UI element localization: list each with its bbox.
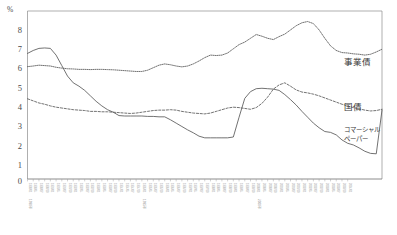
- x-tick-label: 2002/04: [308, 183, 312, 193]
- x-tick-label: 1998/07: [222, 183, 226, 193]
- x-tick-label: 1999/04: [239, 183, 243, 193]
- x-tick-label: 1993/04: [102, 183, 106, 193]
- x-tick-label: 1992/01: [73, 183, 77, 193]
- legend-label-commercial-paper-2: ペーパー: [344, 135, 368, 142]
- x-tick-label: 2000/01: [256, 183, 260, 193]
- x-tick-label: 2001/10: [296, 183, 300, 193]
- y-tick-1: 1: [18, 160, 22, 170]
- x-tick-label: 1999/01: [233, 183, 237, 193]
- x-tick-label: 2001/04: [285, 183, 289, 193]
- x-tick-label: 2000/04: [262, 183, 266, 193]
- x-tick-label: 1997/07: [199, 183, 203, 193]
- x-tick-label: 1990/01: [28, 183, 32, 193]
- x-tick-label: 1993/07: [108, 183, 112, 193]
- x-tick-label: 1994/10: [136, 183, 140, 193]
- x-tick-label: 1996/04: [170, 183, 174, 193]
- x-tick-label: 2000/10: [273, 183, 277, 193]
- x-tick-label: 1991/01: [50, 183, 54, 193]
- x-tick-label: 1991/10: [68, 183, 72, 193]
- x-tick-label: 1993/01: [96, 183, 100, 193]
- x-tick-major-label: 1990年: [28, 199, 33, 209]
- legend-label-corporate-bond: 事業債: [344, 57, 371, 67]
- x-tick-label: 1999/07: [245, 183, 249, 193]
- y-tick-0: 0: [18, 176, 22, 186]
- x-tick-label: 1996/07: [176, 183, 180, 193]
- x-tick-label: 1993/10: [113, 183, 117, 193]
- y-tick-8: 8: [18, 25, 22, 35]
- x-tick-label: 1999/10: [251, 183, 255, 193]
- y-tick-5: 5: [18, 83, 22, 93]
- x-tick-label: 2003/10: [342, 183, 346, 193]
- x-tick-label: 1994/01: [119, 183, 123, 193]
- legend-label-government-bond: 国債: [344, 102, 362, 112]
- x-tick-major-label: 2000年: [257, 199, 262, 209]
- x-tick-label: 1994/07: [130, 183, 134, 193]
- chart-page: % 8 7 6 5 4 3 2 1 0 1990/011990/041990/0…: [0, 0, 397, 235]
- y-tick-7: 7: [18, 44, 22, 54]
- x-tick-label: 2002/10: [319, 183, 323, 193]
- x-tick-label: 2000/07: [268, 183, 272, 193]
- x-tick-label: 2002/01: [302, 183, 306, 193]
- x-tick-label: 2001/07: [291, 183, 295, 193]
- x-tick-label: 2003/01: [325, 183, 329, 193]
- x-tick-label: 1991/04: [56, 183, 60, 193]
- x-tick-label: 1998/04: [216, 183, 220, 193]
- x-tick-label: 1994/04: [125, 183, 129, 193]
- x-tick-label: 1996/10: [182, 183, 186, 193]
- x-tick-major-label: 1995年: [142, 199, 147, 209]
- x-tick-label: 1990/10: [45, 183, 49, 193]
- x-tick-label: 1997/04: [193, 183, 197, 193]
- x-tick-label: 1991/07: [62, 183, 66, 193]
- x-tick-label: 1995/07: [153, 183, 157, 193]
- chart-background: [0, 0, 397, 235]
- x-tick-label: 1992/10: [90, 183, 94, 193]
- line-chart: % 8 7 6 5 4 3 2 1 0 1990/011990/041990/0…: [0, 0, 397, 235]
- x-tick-label: 1995/10: [159, 183, 163, 193]
- x-tick-label: 2001/01: [279, 183, 283, 193]
- x-tick-label: 1997/10: [205, 183, 209, 193]
- legend-label-commercial-paper-1: コマーシャル: [344, 126, 381, 133]
- x-tick-label: 1990/07: [39, 183, 43, 193]
- x-tick-label: 1992/07: [85, 183, 89, 193]
- x-tick-label: 2003/04: [331, 183, 335, 193]
- x-tick-label: 1992/04: [79, 183, 83, 193]
- x-tick-label: 2004/01: [348, 183, 352, 193]
- y-tick-6: 6: [18, 63, 22, 73]
- y-tick-2: 2: [18, 141, 22, 151]
- y-axis-unit-label: %: [7, 5, 13, 14]
- x-tick-label: 1995/04: [148, 183, 152, 193]
- y-tick-3: 3: [18, 121, 22, 131]
- x-tick-label: 1995/01: [142, 183, 146, 193]
- x-tick-label: 1998/10: [228, 183, 232, 193]
- x-tick-label: 1997/01: [188, 183, 192, 193]
- x-tick-label: 1996/01: [165, 183, 169, 193]
- x-tick-label: 2002/07: [313, 183, 317, 193]
- x-tick-label: 1998/01: [211, 183, 215, 193]
- x-tick-label: 2003/07: [336, 183, 340, 193]
- x-tick-label: 1990/04: [33, 183, 37, 193]
